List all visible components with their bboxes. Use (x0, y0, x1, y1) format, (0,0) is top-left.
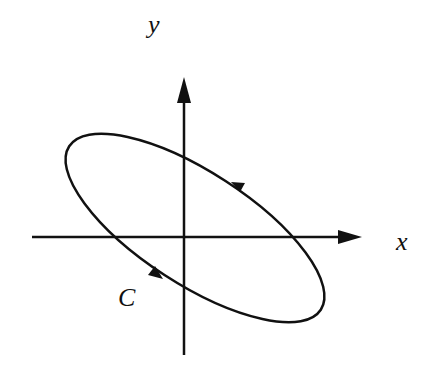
y-axis-label: y (145, 10, 160, 39)
y-axis-arrowhead-icon (177, 77, 191, 103)
closed-curve-C (39, 99, 352, 356)
x-axis-arrowhead-icon (338, 230, 362, 244)
y-axis (177, 77, 191, 355)
curve-label: C (118, 283, 136, 312)
coordinate-diagram: y x C (0, 0, 430, 386)
x-axis (32, 230, 362, 244)
x-axis-label: x (395, 227, 408, 256)
diagram-canvas: y x C (0, 0, 430, 386)
